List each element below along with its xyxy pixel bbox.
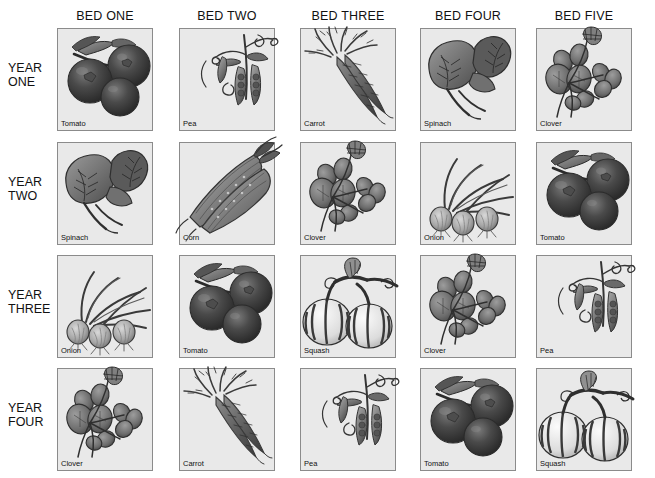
crop-caption: Carrot [183,460,204,468]
crop-caption: Tomato [540,234,565,242]
row-label-year-three: YEARTHREE [8,289,50,316]
crop-rotation-chart: BED ONEBED TWOBED THREEBED FOURBED FIVEY… [0,0,655,478]
crop-caption: Squash [304,347,329,355]
row-label-line-1: YEAR [8,289,50,303]
row-label-year-four: YEARFOUR [8,402,43,429]
crop-cell-r1-c5[interactable]: Clover [536,28,632,131]
crop-caption: Spinach [61,234,88,242]
crop-cell-r3-c4[interactable]: Clover [420,255,516,358]
row-label-line-2: TWO [8,190,42,204]
row-label-line-1: YEAR [8,176,42,190]
crop-caption: Carrot [304,120,325,128]
crop-caption: Tomato [183,347,208,355]
row-label-line-2: FOUR [8,416,43,430]
crop-cell-r4-c3[interactable]: Pea [300,368,396,471]
crop-cell-r2-c4[interactable]: Onion [420,142,516,245]
clover-illustration [529,21,641,133]
crop-caption: Pea [540,347,553,355]
squash-illustration [529,361,641,473]
clover-illustration [50,361,162,473]
column-header-bed-four: BED FOUR [408,9,528,23]
crop-caption: Onion [424,234,444,242]
tomato-illustration [50,21,162,133]
crop-cell-r1-c1[interactable]: Tomato [57,28,153,131]
crop-cell-r3-c3[interactable]: Squash [300,255,396,358]
carrot-illustration [293,21,405,133]
crop-cell-r3-c5[interactable]: Pea [536,255,632,358]
pea-illustration [293,361,405,473]
corn-illustration [172,135,284,247]
onion-illustration [413,135,525,247]
crop-caption: Clover [424,347,446,355]
pea-illustration [529,248,641,360]
crop-caption: Pea [183,120,196,128]
carrot-illustration [172,361,284,473]
tomato-illustration [413,361,525,473]
row-label-line-1: YEAR [8,62,42,76]
crop-cell-r4-c2[interactable]: Carrot [179,368,275,471]
column-header-bed-one: BED ONE [45,9,165,23]
crop-caption: Clover [540,120,562,128]
row-label-line-2: ONE [8,76,42,90]
crop-cell-r4-c5[interactable]: Squash [536,368,632,471]
crop-caption: Corn [183,234,199,242]
clover-illustration [413,248,525,360]
crop-cell-r2-c2[interactable]: Corn [179,142,275,245]
crop-caption: Spinach [424,120,451,128]
crop-caption: Tomato [61,120,86,128]
crop-caption: Pea [304,460,317,468]
crop-caption: Clover [304,234,326,242]
crop-cell-r1-c4[interactable]: Spinach [420,28,516,131]
crop-cell-r3-c1[interactable]: Onion [57,255,153,358]
column-header-bed-two: BED TWO [167,9,287,23]
crop-cell-r1-c2[interactable]: Pea [179,28,275,131]
crop-cell-r4-c1[interactable]: Clover [57,368,153,471]
crop-cell-r3-c2[interactable]: Tomato [179,255,275,358]
crop-cell-r2-c3[interactable]: Clover [300,142,396,245]
row-label-year-two: YEARTWO [8,176,42,203]
crop-caption: Tomato [424,460,449,468]
pea-illustration [172,21,284,133]
spinach-illustration [50,135,162,247]
spinach-illustration [413,21,525,133]
column-header-bed-three: BED THREE [288,9,408,23]
row-label-line-1: YEAR [8,402,43,416]
tomato-illustration [529,135,641,247]
crop-cell-r1-c3[interactable]: Carrot [300,28,396,131]
crop-cell-r2-c1[interactable]: Spinach [57,142,153,245]
row-label-year-one: YEARONE [8,62,42,89]
crop-caption: Onion [61,347,81,355]
crop-cell-r2-c5[interactable]: Tomato [536,142,632,245]
squash-illustration [293,248,405,360]
column-header-bed-five: BED FIVE [524,9,644,23]
onion-illustration [50,248,162,360]
crop-caption: Squash [540,460,565,468]
crop-caption: Clover [61,460,83,468]
row-label-line-2: THREE [8,303,50,317]
tomato-illustration [172,248,284,360]
clover-illustration [293,135,405,247]
crop-cell-r4-c4[interactable]: Tomato [420,368,516,471]
